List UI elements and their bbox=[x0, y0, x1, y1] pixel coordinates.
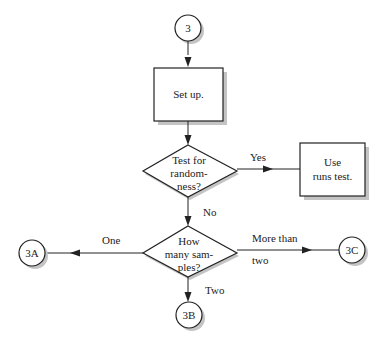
flowchart-canvas: 3 Set up. Test for random- ness? Yes Use… bbox=[0, 0, 386, 347]
connector-3a-label: 3A bbox=[25, 247, 39, 259]
edge-label-one: One bbox=[102, 234, 120, 246]
decision-line-1: Test for bbox=[172, 154, 206, 166]
decision-line-2: many sam- bbox=[165, 248, 214, 260]
connector-3: 3 bbox=[175, 15, 204, 44]
connector-3b-label: 3B bbox=[183, 309, 196, 321]
edge-label-yes: Yes bbox=[250, 151, 266, 163]
runs-test-line-1: Use bbox=[324, 156, 341, 168]
decision-line-3: ples? bbox=[178, 261, 201, 273]
decision-line-2: random- bbox=[170, 167, 208, 179]
arrowhead-icon bbox=[302, 247, 312, 254]
edge-label-two-suffix: two bbox=[252, 254, 269, 266]
edge-label-more-than: More than bbox=[252, 232, 298, 244]
decision-test-randomness: Test for random- ness? bbox=[143, 145, 239, 200]
arrowhead-icon bbox=[263, 166, 273, 173]
arrowhead-icon bbox=[185, 292, 192, 302]
edge-no: No bbox=[185, 197, 217, 226]
edge-one: One bbox=[45, 234, 143, 257]
process-runs-test: Use runs test. bbox=[300, 143, 369, 200]
edge-two: Two bbox=[185, 277, 225, 302]
decision-line-1: How bbox=[178, 235, 199, 247]
edge-start-setup bbox=[185, 41, 192, 67]
edge-label-no: No bbox=[203, 206, 217, 218]
edge-label-two: Two bbox=[205, 284, 225, 296]
setup-label: Set up. bbox=[173, 88, 204, 100]
decision-line-3: ness? bbox=[177, 180, 201, 192]
connector-3b: 3B bbox=[176, 302, 205, 331]
decision-how-many-samples: How many sam- ples? bbox=[143, 226, 239, 280]
arrowhead-icon bbox=[185, 57, 192, 67]
connector-3c: 3C bbox=[339, 237, 368, 266]
connector-3-label: 3 bbox=[185, 22, 191, 34]
arrowhead-icon bbox=[70, 250, 80, 257]
edge-more-than-two: More than two bbox=[237, 232, 339, 266]
edge-yes: Yes bbox=[237, 151, 300, 173]
connector-3a: 3A bbox=[19, 240, 48, 269]
arrowhead-icon bbox=[185, 216, 192, 226]
connector-3c-label: 3C bbox=[346, 244, 359, 256]
runs-test-line-2: runs test. bbox=[313, 170, 353, 182]
process-setup: Set up. bbox=[154, 68, 227, 125]
arrowhead-icon bbox=[185, 135, 192, 145]
